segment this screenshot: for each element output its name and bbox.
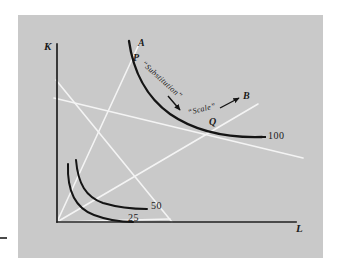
point-label-q: Q: [209, 116, 216, 127]
ray-through-a: [57, 42, 140, 222]
isoquant-figure: K L A P Q B “Substitution” “Scale” 100 5…: [0, 0, 341, 273]
isoquant-50: [76, 160, 147, 209]
point-label-p: P: [133, 52, 139, 63]
x-axis-label: L: [296, 222, 303, 234]
isoquant-label-25: 25: [128, 212, 139, 223]
construction-lines: [54, 42, 303, 222]
y-axis-label: K: [44, 40, 51, 52]
isoquant-label-100: 100: [268, 130, 285, 141]
isoquant-label-50: 50: [151, 200, 162, 211]
scale-arrow: [220, 98, 239, 108]
axes: [57, 44, 296, 222]
isoquant-curves: [68, 41, 262, 222]
point-label-b: B: [243, 90, 250, 101]
point-label-a: A: [138, 37, 145, 48]
